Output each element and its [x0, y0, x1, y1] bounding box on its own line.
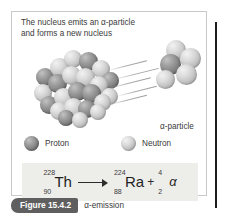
- emitted-symbol: α: [169, 170, 176, 194]
- alpha-neutron-icon: [156, 70, 175, 89]
- nucleus-neutron-icon: [90, 104, 106, 120]
- alpha-particle-label: α-particle: [160, 122, 194, 131]
- parent-atomic-number: 90: [43, 188, 51, 195]
- proton-icon: [24, 136, 39, 151]
- page-side-rule: [215, 22, 217, 208]
- figure-panel: The nucleus emits an α-particle and form…: [11, 11, 207, 196]
- alpha-neutron-icon: [176, 64, 197, 85]
- reaction-arrow-icon: [78, 177, 108, 187]
- daughter-atomic-number: 88: [114, 188, 122, 195]
- decay-equation: 228 90 Th 224 88 Ra + 4 2 α: [22, 163, 198, 201]
- figure-description: The nucleus emits an α-particle and form…: [21, 18, 199, 39]
- legend-label-neutron: Neutron: [142, 139, 171, 148]
- plus-sign: +: [147, 175, 154, 189]
- decay-equation-box: 228 90 Th 224 88 Ra + 4 2 α: [22, 163, 198, 201]
- figure-title: α-emission: [84, 201, 124, 210]
- parent-nuclide: 228 90 Th: [43, 170, 72, 194]
- nucleus-neutron-icon: [72, 112, 88, 128]
- legend: Proton Neutron: [12, 136, 208, 158]
- emitted-nuclide: 4 2 α: [158, 170, 176, 194]
- daughter-symbol: Ra: [125, 170, 144, 194]
- alpha-particle-diagram: [152, 40, 208, 96]
- daughter-mass-number: 224: [114, 169, 126, 176]
- neutron-icon: [121, 136, 136, 151]
- figure-number-tab: Figure 15.4.2: [11, 198, 78, 214]
- legend-item-proton: Proton: [24, 136, 69, 151]
- parent-symbol: Th: [54, 170, 72, 194]
- illustration-stage: α-particle: [12, 38, 208, 122]
- legend-label-proton: Proton: [45, 139, 69, 148]
- emitted-atomic-number: 2: [158, 188, 162, 195]
- parent-mass-number: 228: [43, 169, 55, 176]
- daughter-nuclide: 224 88 Ra: [114, 170, 144, 194]
- figure-caption-bar: Figure 15.4.2 α-emission: [11, 198, 124, 213]
- legend-item-neutron: Neutron: [121, 136, 171, 151]
- emitted-mass-number: 4: [158, 169, 162, 176]
- figure-container: The nucleus emits an α-particle and form…: [0, 0, 227, 219]
- figure-description-line-1: The nucleus emits an α-particle: [21, 18, 199, 29]
